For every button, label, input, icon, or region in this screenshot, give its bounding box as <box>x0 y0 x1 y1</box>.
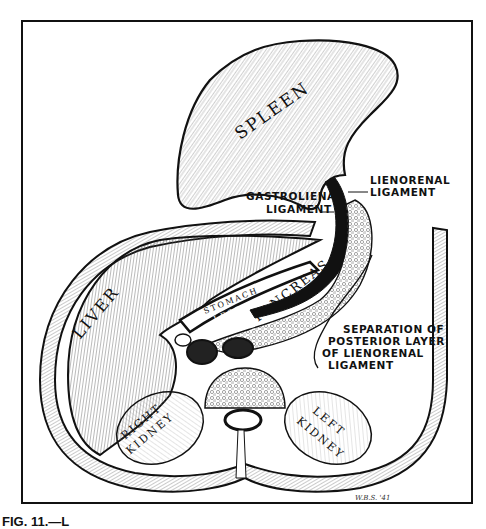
artist-signature: W.B.S. '41 <box>355 494 390 502</box>
label-separation-1: SEPARATION OF <box>343 323 444 335</box>
label-gastrolienal-1: GASTROLIENAL <box>246 190 343 202</box>
label-lienorenal-2: LIGAMENT <box>370 186 436 198</box>
spinous-process <box>236 430 246 478</box>
small-vessel <box>175 334 191 346</box>
label-separation-4: LIGAMENT <box>328 359 394 371</box>
inferior-vena-cava <box>187 340 217 364</box>
label-gastrolienal-2: LIGAMENT <box>266 203 332 215</box>
vertebral-body <box>205 368 285 408</box>
spleen <box>177 40 397 209</box>
label-lienorenal-1: LIENORENAL <box>370 174 450 186</box>
aorta <box>223 338 253 358</box>
label-separation-2: POSTERIOR LAYER <box>328 335 445 347</box>
label-separation-3: OF LIENORENAL <box>322 347 424 359</box>
figure-caption: FIG. 11.—L <box>2 514 69 529</box>
spinal-canal <box>225 410 261 430</box>
